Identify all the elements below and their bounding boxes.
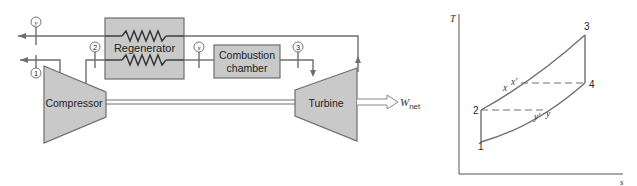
exhaust-pipe	[18, 36, 358, 72]
combustor-to-turbine-pipe	[280, 60, 313, 70]
point-y-prime-label: y′	[533, 112, 541, 122]
inlet-arrow-icon	[20, 57, 28, 63]
work-symbol: Wnet	[400, 96, 421, 111]
svg-text:2: 2	[93, 43, 97, 52]
point-y-label: y	[545, 109, 551, 119]
point-2-label: 2	[473, 105, 479, 116]
ts-diagram: T s 1 2 3 4 x x′ y y′	[450, 13, 624, 186]
point-1-label: 1	[478, 141, 484, 152]
net-work-output: Wnet	[357, 95, 421, 111]
marker-y: y	[31, 17, 41, 27]
point-4-label: 4	[589, 79, 595, 90]
s-axis-label: s	[620, 177, 624, 186]
marker-1: 1	[31, 68, 41, 78]
process-4-1	[481, 83, 585, 142]
combustion-label-line1: Combustion	[219, 49, 275, 61]
point-x-prime-label: x′	[510, 77, 518, 87]
svg-text:3: 3	[296, 43, 300, 52]
compressor-label: Compressor	[45, 97, 103, 109]
turbine-exit-arrow-icon	[355, 56, 361, 63]
marker-x: x	[194, 42, 204, 52]
point-3-label: 3	[584, 21, 590, 32]
turbine-inlet-arrow-icon	[310, 70, 316, 77]
combustion-label-line2: chamber	[227, 62, 268, 74]
point-x-label: x	[502, 83, 508, 93]
marker-2: 2	[90, 42, 100, 52]
cycle-path	[481, 35, 585, 142]
t-axis-label: T	[450, 13, 457, 24]
process-2-3	[481, 35, 585, 110]
combustion-chamber: Combustion chamber	[214, 45, 280, 78]
shaft	[106, 100, 295, 104]
point-labels: 1 2 3 4 x x′ y y′	[473, 21, 595, 152]
turbine-label: Turbine	[308, 97, 343, 109]
axes	[459, 14, 623, 174]
svg-text:1: 1	[34, 69, 38, 78]
exhaust-arrow	[18, 33, 26, 39]
regenerator-label: Regenerator	[114, 42, 175, 54]
cycle-schematic: Regenerator Combustion chamber Compresso…	[18, 17, 421, 143]
compressor: Compressor	[44, 66, 106, 143]
regenerator: Regenerator	[105, 18, 184, 79]
work-arrow-icon	[357, 95, 398, 109]
regenerative-gas-turbine-figure: Regenerator Combustion chamber Compresso…	[0, 0, 637, 186]
turbine: Turbine	[295, 68, 357, 141]
marker-3: 3	[293, 42, 303, 52]
